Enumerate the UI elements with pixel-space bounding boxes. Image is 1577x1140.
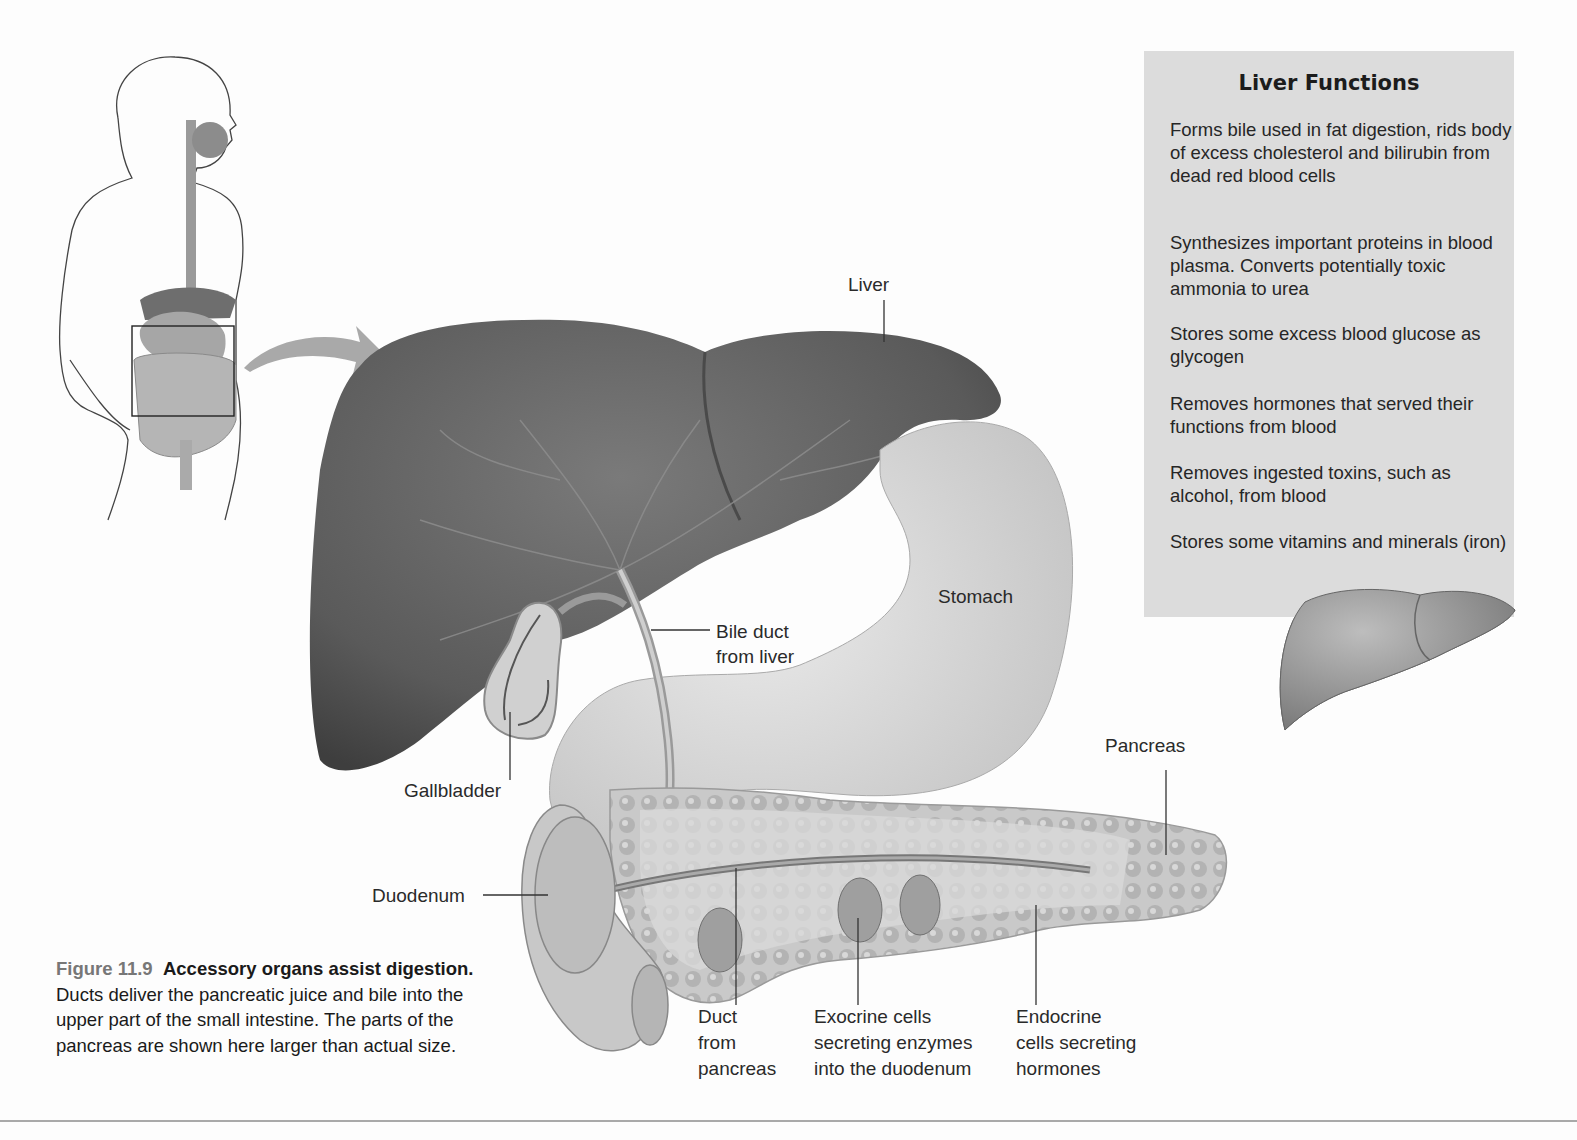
label-duct-line1: Duct [698, 1004, 737, 1029]
liver-function-item: Forms bile used in fat digestion, rids b… [1170, 118, 1515, 187]
label-endocrine-line1: Endocrine [1016, 1004, 1102, 1029]
label-gallbladder: Gallbladder [404, 778, 501, 803]
label-stomach: Stomach [938, 584, 1013, 609]
liver-functions-title: Liver Functions [1144, 71, 1514, 95]
small-liver-icon [1270, 575, 1530, 745]
figure-title: Accessory organs assist digestion. [163, 958, 474, 979]
label-endocrine-line2: cells secreting [1016, 1030, 1136, 1055]
figure-caption: Figure 11.9 Accessory organs assist dige… [56, 956, 506, 1058]
label-bile-duct-line1: Bile duct [716, 619, 789, 644]
label-exocrine-line3: into the duodenum [814, 1056, 971, 1081]
label-duct-line2: from [698, 1030, 736, 1055]
label-liver: Liver [848, 272, 889, 297]
liver-function-item: Stores some excess blood glucose as glyc… [1170, 322, 1515, 368]
label-pancreas: Pancreas [1105, 733, 1185, 758]
liver-function-item: Synthesizes important proteins in blood … [1170, 231, 1515, 300]
liver-function-item: Removes ingested toxins, such as alcohol… [1170, 461, 1515, 507]
liver-function-item: Stores some vitamins and minerals (iron) [1170, 530, 1515, 553]
bottom-divider [0, 1120, 1577, 1122]
figure-number: Figure 11.9 [56, 958, 153, 979]
label-bile-duct-line2: from liver [716, 644, 794, 669]
liver-function-item: Removes hormones that served their funct… [1170, 392, 1515, 438]
label-duodenum: Duodenum [372, 883, 465, 908]
liver-functions-box: Liver Functions Forms bile used in fat d… [1144, 51, 1514, 617]
label-exocrine-line2: secreting enzymes [814, 1030, 972, 1055]
figure-body: Ducts deliver the pancreatic juice and b… [56, 984, 463, 1056]
label-exocrine-line1: Exocrine cells [814, 1004, 931, 1029]
label-endocrine-line3: hormones [1016, 1056, 1101, 1081]
label-duct-line3: pancreas [698, 1056, 776, 1081]
